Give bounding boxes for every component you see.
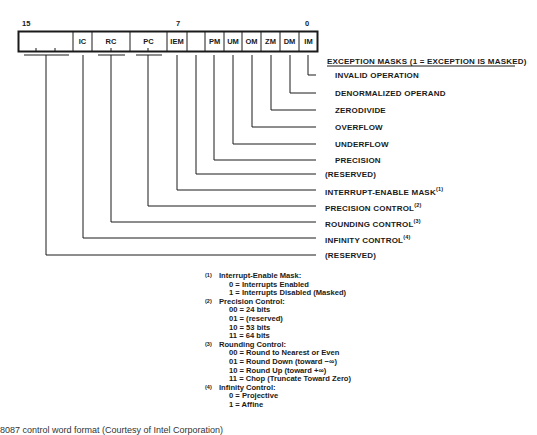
field-denormalized-operand: DENORMALIZED OPERAND: [335, 89, 446, 98]
field-infinity-control: INFINITY CONTROL(4): [325, 234, 411, 245]
note-precision-control: (2) Precision Control: 00 = 24 bits 01 =…: [205, 298, 351, 341]
field-overflow: OVERFLOW: [335, 123, 383, 132]
field-invalid-operation: INVALID OPERATION: [335, 71, 419, 80]
field-interrupt-enable-mask: INTERRUPT-ENABLE MASK(1): [325, 186, 443, 197]
field-zerodivide: ZERODIVIDE: [335, 106, 386, 115]
field-reserved-bit6: (RESERVED): [325, 170, 376, 179]
cell-pc: PC: [130, 37, 167, 46]
cell-rc: RC: [92, 37, 130, 46]
note-number: (1): [205, 271, 212, 280]
bit-number-15: 15: [22, 19, 30, 28]
note-rounding-control: (3) Rounding Control: 00 = Round to Near…: [205, 341, 351, 384]
cell-zm: ZM: [261, 37, 280, 46]
bit-number-0: 0: [305, 19, 309, 28]
field-precision-control: PRECISION CONTROL(2): [325, 202, 422, 213]
exception-masks-header: EXCEPTION MASKS (1 = EXCEPTION IS MASKED…: [327, 57, 527, 66]
field-rounding-control: ROUNDING CONTROL(3): [325, 218, 421, 229]
bit-number-7: 7: [176, 19, 180, 28]
cell-im: IM: [299, 37, 318, 46]
cell-pm: PM: [205, 37, 224, 46]
cell-dm: DM: [280, 37, 299, 46]
note-interrupt-enable-mask: (1) Interrupt-Enable Mask: 0 = Interrupt…: [205, 272, 351, 298]
cell-iem: IEM: [167, 37, 187, 46]
footnotes: (1) Interrupt-Enable Mask: 0 = Interrupt…: [205, 272, 351, 410]
note-number: (4): [205, 383, 212, 392]
note-number: (3): [205, 340, 212, 349]
note-infinity-control: (4) Infinity Control: 0 = Projective 1 =…: [205, 384, 351, 410]
field-reserved-high: (RESERVED): [325, 251, 376, 260]
note-item: 1 = Affine: [219, 401, 351, 410]
figure-caption: 8087 control word format (Courtesy of In…: [0, 425, 223, 435]
field-underflow: UNDERFLOW: [335, 140, 389, 149]
cell-ic: IC: [73, 37, 92, 46]
cell-um: UM: [224, 37, 242, 46]
note-number: (2): [205, 297, 212, 306]
cell-om: OM: [242, 37, 261, 46]
field-precision: PRECISION: [335, 156, 381, 165]
